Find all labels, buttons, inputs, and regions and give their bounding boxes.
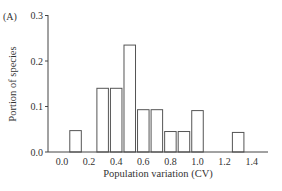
x-tick-label: 0.6 (137, 156, 150, 167)
x-ticks: 0.00.20.40.60.81.01.21.4 (56, 156, 258, 167)
x-tick-label: 0.8 (164, 156, 177, 167)
x-tick-label: 1.2 (218, 156, 231, 167)
bar (192, 111, 204, 152)
x-tick-label: 1.0 (191, 156, 204, 167)
bar (178, 132, 190, 152)
y-tick-label: 0.3 (31, 10, 44, 21)
bar (151, 110, 163, 152)
x-tick-label: 0.4 (110, 156, 123, 167)
bars (70, 45, 244, 152)
bar (97, 88, 109, 152)
bar (110, 88, 122, 152)
y-tick-label: 0.1 (31, 101, 44, 112)
bar (124, 45, 136, 152)
y-tick-label: 0.2 (31, 56, 44, 67)
x-axis-label: Population variation (CV) (103, 168, 213, 180)
bar (232, 132, 244, 152)
x-tick-label: 0.0 (56, 156, 69, 167)
bar (165, 132, 177, 152)
x-tick-label: 0.2 (83, 156, 96, 167)
y-tick-label: 0.0 (31, 147, 44, 158)
histogram-chart: 0.00.10.20.3 0.00.20.40.60.81.01.21.4 (A… (0, 0, 282, 191)
bar (138, 110, 150, 152)
x-tick-label: 1.4 (245, 156, 258, 167)
panel-label: (A) (3, 11, 17, 23)
y-ticks: 0.00.10.20.3 (31, 10, 49, 158)
bar (70, 131, 82, 152)
y-axis-label: Portion of species (7, 46, 18, 121)
